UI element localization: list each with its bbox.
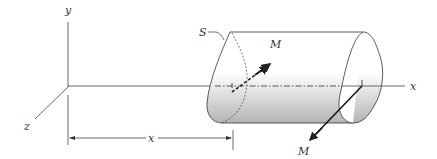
x-axis-label: x <box>410 80 417 93</box>
section-label: S <box>199 26 207 39</box>
y-axis-label: y <box>64 4 72 17</box>
distance-label: x <box>148 132 155 145</box>
moment-label-top: M <box>269 38 282 51</box>
z-axis-line <box>35 87 68 119</box>
section-leader <box>208 32 224 40</box>
beam-diagram: y z x S M M x <box>0 0 437 159</box>
coordinate-axes <box>35 22 215 119</box>
z-axis-label: z <box>23 120 30 133</box>
moment-label-bottom: M <box>297 145 310 158</box>
cylinder-beam <box>207 32 383 123</box>
